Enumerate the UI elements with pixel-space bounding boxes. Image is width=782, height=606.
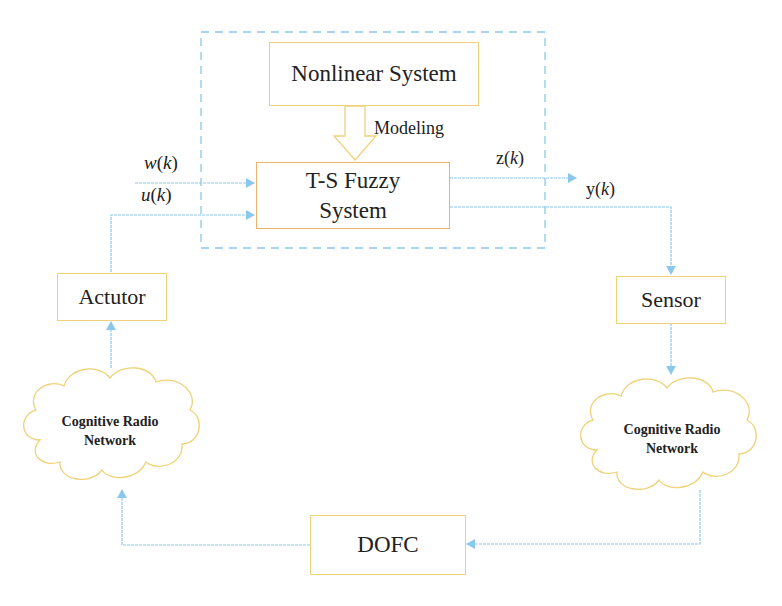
y-arg: k: [601, 179, 609, 199]
ts-fuzzy-label-line1: T-S Fuzzy: [306, 166, 400, 196]
ts-fuzzy-system-block: T-S Fuzzy System: [256, 162, 450, 229]
u-symbol: u: [141, 184, 151, 205]
y-k-label: y(k): [586, 179, 615, 200]
nonlinear-system-block: Nonlinear System: [269, 42, 479, 106]
modeling-label: Modeling: [374, 118, 444, 139]
ts-fuzzy-label-line2: System: [319, 196, 387, 226]
w-k-label: w(k): [144, 152, 178, 174]
cloud-right-line1: Cognitive Radio: [587, 420, 757, 439]
cloud-right-line2: Network: [587, 439, 757, 458]
cloud-left-text: Cognitive Radio Network: [30, 412, 190, 450]
z-arg: k: [510, 148, 518, 168]
cloud-left-line2: Network: [30, 431, 190, 450]
sensor-label: Sensor: [641, 287, 701, 313]
y-symbol: y: [586, 179, 595, 199]
u-arg: k: [157, 184, 165, 205]
network-to-dofc-arrow: [467, 490, 700, 544]
sensor-block: Sensor: [616, 276, 726, 324]
cloud-right-text: Cognitive Radio Network: [587, 420, 757, 458]
z-symbol: z: [496, 148, 504, 168]
y-output-arrow: [450, 207, 671, 274]
u-input-arrow: [111, 215, 254, 272]
u-k-label: u(k): [141, 184, 172, 206]
z-k-label: z(k): [496, 148, 524, 169]
w-arg: k: [163, 152, 171, 173]
w-symbol: w: [144, 152, 157, 173]
modeling-arrow-icon: [334, 106, 376, 160]
dofc-block: DOFC: [310, 515, 466, 575]
dofc-to-network-arrow: [122, 490, 310, 545]
nonlinear-system-label: Nonlinear System: [291, 61, 456, 87]
actuator-label: Actutor: [78, 284, 145, 310]
actuator-block: Actutor: [57, 273, 167, 321]
dofc-label: DOFC: [357, 532, 418, 558]
cloud-left-line1: Cognitive Radio: [30, 412, 190, 431]
